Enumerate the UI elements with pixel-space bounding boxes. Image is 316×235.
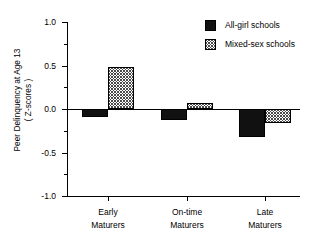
legend-label-mixed-sex: Mixed-sex schools (225, 39, 295, 49)
x-tick-ontime (187, 196, 188, 201)
legend-swatch-solid-icon (205, 20, 216, 31)
y-tick-label-0.0: 0.0 (44, 104, 56, 114)
y-tick-label-neg0.5: -0.5 (41, 148, 56, 158)
chart-figure: Peer Delinquency at Age 13 ( Z-scores ) … (0, 0, 316, 235)
y-tick-0.5: 0.5 (62, 66, 67, 67)
y-axis-title-line2: ( Z-scores ) (23, 49, 34, 152)
x-label-early-line2: Maturers (91, 219, 125, 232)
x-label-late-line2: Maturers (248, 219, 282, 232)
y-tick-label-neg1.0: -1.0 (41, 191, 56, 201)
x-tick-late (265, 196, 266, 201)
y-tick-label-1.0: 1.0 (44, 17, 56, 27)
y-minor-tick-0.25 (64, 87, 67, 88)
bar-ontime-all-girl (161, 109, 187, 120)
x-tick-early (108, 196, 109, 201)
y-minor-tick-neg0.25 (64, 131, 67, 132)
x-label-ontime-line2: Maturers (170, 219, 204, 232)
legend-item-all-girl: All-girl schools (205, 17, 295, 33)
bar-early-all-girl (82, 109, 108, 117)
y-axis-title: Peer Delinquency at Age 13 ( Z-scores ) (0, 0, 46, 200)
bar-late-mixed-sex (265, 109, 291, 123)
legend-item-mixed-sex: Mixed-sex schools (205, 36, 295, 52)
legend-label-all-girl: All-girl schools (225, 20, 280, 30)
chart-legend: All-girl schools Mixed-sex schools (205, 17, 295, 55)
y-tick-1.0: 1.0 (62, 22, 67, 23)
x-tick-label-early: Early Maturers (91, 206, 125, 231)
x-tick-label-late: Late Maturers (248, 206, 282, 231)
bar-ontime-mixed-sex (187, 103, 213, 109)
legend-swatch-hatch-icon (205, 39, 216, 50)
y-minor-tick-neg0.75 (64, 174, 67, 175)
y-tick-label-0.5: 0.5 (44, 61, 56, 71)
y-minor-tick-0.75 (64, 44, 67, 45)
y-tick-0.0: 0.0 (62, 109, 67, 110)
x-tick-label-ontime: On-time Maturers (170, 206, 204, 231)
bar-late-all-girl (239, 109, 265, 137)
y-tick-neg1.0: -1.0 (62, 196, 67, 197)
y-tick-neg0.5: -0.5 (62, 153, 67, 154)
y-axis-title-line1: Peer Delinquency at Age 13 (12, 49, 23, 152)
x-label-late-line1: Late (248, 206, 282, 219)
x-label-early-line1: Early (91, 206, 125, 219)
bar-early-mixed-sex (108, 67, 134, 109)
x-label-ontime-line1: On-time (170, 206, 204, 219)
